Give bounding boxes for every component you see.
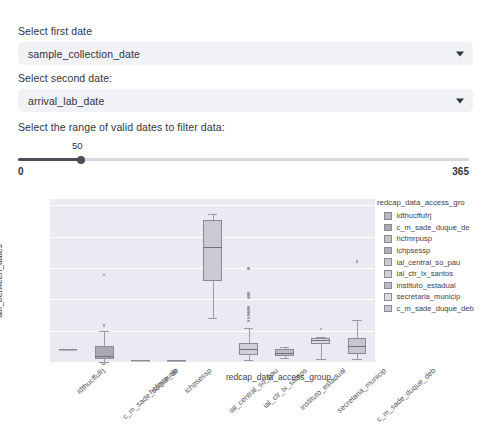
- boxplot-box: [131, 360, 150, 363]
- legend-swatch: [384, 293, 392, 301]
- legend-label: secretaria_municip: [397, 292, 461, 301]
- boxplot-whisker-cap: [280, 347, 289, 348]
- legend-label: ial_central_so_pau: [397, 258, 461, 267]
- boxplot-whisker-cap: [244, 328, 253, 329]
- legend-items: idthucffufrjc_m_sade_duque_dehcfmrpuspic…: [377, 210, 487, 314]
- boxplot-whisker: [357, 320, 358, 338]
- legend-item: c_m_sade_duque_de: [377, 222, 487, 234]
- legend-label: hcfmrpusp: [397, 234, 432, 243]
- range-label: Select the range of valid dates to filte…: [18, 120, 487, 134]
- boxplot-whisker-cap: [208, 214, 217, 215]
- slider-track[interactable]: [18, 158, 469, 161]
- boxplot-outlier: [247, 320, 249, 322]
- boxplot-median: [203, 247, 222, 248]
- slider-value-label: 50: [72, 140, 83, 151]
- legend-title: redcap_data_access_gro: [377, 198, 485, 207]
- legend-swatch: [384, 212, 392, 220]
- legend-item: ial_ctr_lx_santos: [377, 268, 487, 280]
- legend-swatch: [384, 305, 392, 313]
- boxplot-whisker-cap: [99, 331, 108, 332]
- legend-label: instituto_estadual: [397, 281, 456, 290]
- app-root: Select first date sample_collection_date…: [0, 0, 487, 436]
- boxplot-whisker: [249, 328, 250, 344]
- y-axis-title: diff_between_dates: [0, 244, 4, 318]
- legend-item: instituto_estadual: [377, 280, 487, 292]
- boxplot-outlier: [356, 260, 358, 262]
- boxplot-outlier: [247, 294, 249, 296]
- slider-min-label: 0: [18, 166, 24, 177]
- y-axis-title-holder: diff_between_dates: [8, 199, 22, 362]
- boxplot-outlier: [247, 267, 249, 269]
- chevron-down-icon: [456, 51, 464, 56]
- boxplot-median: [239, 349, 258, 350]
- slider-fill: [18, 158, 80, 161]
- legend-swatch: [384, 235, 392, 243]
- date-range-slider[interactable]: 50 0 365: [18, 142, 469, 176]
- boxplot-median: [311, 340, 330, 341]
- legend-swatch: [384, 224, 392, 232]
- legend-swatch: [384, 258, 392, 266]
- legend-item: idthucffufrj: [377, 210, 487, 222]
- boxplot-box: [59, 349, 78, 352]
- boxplot-whisker-cap: [208, 318, 217, 319]
- second-date-block: Select second date: arrival_lab_date: [0, 71, 487, 112]
- second-date-value: arrival_lab_date: [18, 95, 104, 107]
- boxplot-whisker-cap: [316, 359, 325, 360]
- boxplot-whisker-cap: [244, 360, 253, 361]
- boxplot-outlier: [103, 324, 105, 326]
- first-date-value: sample_collection_date: [18, 48, 140, 60]
- slider-max-label: 365: [452, 166, 469, 177]
- legend-swatch: [384, 282, 392, 290]
- legend-item: secretaria_municip: [377, 291, 487, 303]
- second-date-select[interactable]: arrival_lab_date: [18, 89, 473, 112]
- legend-item: hcfmrpusp: [377, 233, 487, 245]
- x-axis-title: redcap_data_access_group: [156, 372, 331, 382]
- boxplot-whisker-cap: [352, 320, 361, 321]
- second-date-label: Select second date:: [18, 71, 487, 85]
- chevron-down-icon: [456, 98, 464, 103]
- boxplot-whisker-cap: [99, 362, 108, 363]
- boxplot-whisker-cap: [280, 358, 289, 359]
- boxplot-outlier: [247, 314, 249, 316]
- boxplot-outlier: [247, 311, 249, 313]
- boxplot-outlier: [247, 317, 249, 319]
- boxplot-whisker: [104, 331, 105, 347]
- boxplot-whisker-cap: [316, 337, 325, 338]
- boxplot-chart: diff_between_dates 01020304050 idthucffu…: [0, 186, 487, 436]
- legend-label: idthucffufrj: [397, 211, 432, 220]
- x-axis-title-row: redcap_data_access_group: [0, 372, 487, 382]
- boxplot-outlier: [247, 297, 249, 299]
- legend-label: c_m_sade_duque_de: [397, 223, 470, 232]
- plot-area: [50, 199, 375, 362]
- boxplot-box: [95, 346, 114, 359]
- legend-swatch: [384, 270, 392, 278]
- first-date-block: Select first date sample_collection_date: [0, 24, 487, 65]
- gridline: [50, 205, 375, 206]
- legend-label: ial_ctr_lx_santos: [397, 269, 454, 278]
- boxplot-outlier: [247, 309, 249, 311]
- first-date-select[interactable]: sample_collection_date: [18, 42, 473, 65]
- boxplot-outlier: [247, 306, 249, 308]
- range-block: Select the range of valid dates to filte…: [0, 120, 487, 138]
- boxplot-box: [167, 360, 186, 363]
- boxplot-median: [275, 353, 294, 354]
- boxplot-outlier: [247, 292, 249, 294]
- chart-legend: redcap_data_access_gro idthucffufrjc_m_s…: [377, 198, 487, 314]
- legend-item: c_m_sade_duque_deb: [377, 303, 487, 315]
- boxplot-box: [203, 220, 222, 281]
- slider-thumb[interactable]: [77, 156, 85, 164]
- legend-item: ial_central_so_pau: [377, 256, 487, 268]
- boxplot-whisker: [213, 281, 214, 318]
- legend-label: ichpsessp: [397, 246, 431, 255]
- boxplot-median: [348, 346, 367, 347]
- legend-item: ichpsessp: [377, 245, 487, 257]
- boxplot-outlier: [103, 274, 105, 276]
- boxplot-whisker: [321, 344, 322, 359]
- legend-swatch: [384, 247, 392, 255]
- boxplot-whisker-cap: [352, 359, 361, 360]
- boxplot-median: [95, 356, 114, 357]
- legend-label: c_m_sade_duque_deb: [397, 304, 474, 313]
- first-date-label: Select first date: [18, 24, 487, 38]
